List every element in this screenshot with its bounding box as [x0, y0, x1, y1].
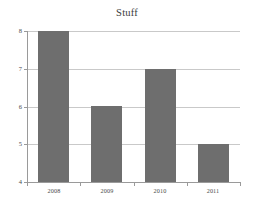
bar	[91, 106, 122, 182]
y-axis-tick-label: 5	[2, 141, 22, 148]
y-axis-tick-label: 7	[2, 66, 22, 73]
bar	[38, 31, 69, 182]
bars-group	[27, 31, 240, 182]
bar	[145, 69, 176, 182]
x-axis-tick-mark	[187, 183, 188, 186]
y-axis-tick-label: 6	[2, 104, 22, 111]
x-axis-tick-mark	[80, 183, 81, 186]
y-axis-tick-label: 8	[2, 28, 22, 35]
x-axis-tick-mark	[27, 183, 28, 186]
bar-chart: Stuff 45678 2008200920102011	[0, 0, 254, 209]
x-axis-tick-label: 2009	[87, 188, 127, 194]
x-axis-tick-mark	[240, 183, 241, 186]
x-axis-tick-label: 2011	[193, 188, 233, 194]
chart-title: Stuff	[0, 7, 254, 18]
x-axis-tick-mark	[134, 183, 135, 186]
x-axis-tick-label: 2010	[140, 188, 180, 194]
x-axis-tick-label: 2008	[34, 188, 74, 194]
y-axis-tick-label: 4	[2, 179, 22, 186]
bar	[198, 144, 229, 182]
